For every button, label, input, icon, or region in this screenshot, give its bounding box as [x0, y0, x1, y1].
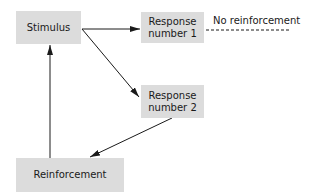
response-1-line2: number 1 — [148, 28, 197, 40]
response-2-line1: Response — [148, 90, 197, 102]
reinforcement-label: Reinforcement — [33, 169, 106, 181]
response-2-node: Response number 2 — [141, 85, 204, 118]
stimulus-label: Stimulus — [27, 22, 70, 34]
response-2-line2: number 2 — [148, 102, 197, 114]
response-1-line1: Response — [148, 16, 197, 28]
response-1-node: Response number 1 — [141, 12, 204, 43]
no-reinforcement-label: No reinforcement — [213, 15, 300, 26]
arrow-stimulus-to-response2 — [82, 29, 139, 97]
stimulus-node: Stimulus — [16, 11, 81, 44]
arrow-response2-to-reinforcement — [90, 118, 172, 157]
reinforcement-node: Reinforcement — [16, 158, 124, 192]
